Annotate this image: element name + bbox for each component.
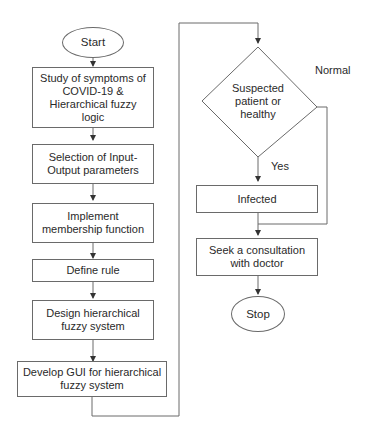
- step-develop-gui: Develop GUI for hierarchical fuzzy syste…: [17, 361, 167, 397]
- step-select-io-params: Selection of Input-Output parameters: [32, 144, 154, 184]
- step-membership-function: Implement membership function: [32, 203, 154, 243]
- yes-edge-label: Yes: [271, 160, 289, 172]
- normal-edge-label: Normal: [315, 64, 350, 76]
- step-study-symptoms: Study of symptoms of COVID-19 & Hierarch…: [32, 67, 154, 128]
- consult-node: Seek a consultation with doctor: [196, 238, 318, 276]
- start-node: Start: [62, 27, 124, 58]
- step-define-rule: Define rule: [32, 259, 154, 282]
- decision-label: Suspected patient or healthy: [220, 82, 296, 121]
- stop-node: Stop: [231, 296, 285, 332]
- step-design-system: Design hierarchical fuzzy system: [32, 300, 154, 340]
- infected-node: Infected: [196, 185, 318, 213]
